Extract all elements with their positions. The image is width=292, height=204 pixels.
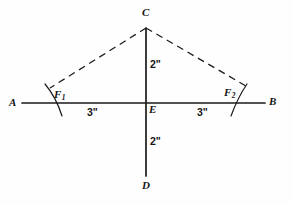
label-f2-subscript: 2: [232, 91, 236, 100]
geometry-diagram: A B C D E F1 F2 2" 2" 3" 3": [0, 0, 292, 204]
label-point-d: D: [142, 180, 150, 191]
dimension-lower-vertical: 2": [150, 136, 161, 147]
label-f2-base: F: [224, 86, 231, 98]
label-point-a: A: [9, 97, 16, 108]
dashed-line-c-f2: [146, 28, 246, 86]
dimension-right-horizontal: 3": [197, 107, 208, 118]
label-point-e: E: [149, 104, 156, 115]
dimension-left-horizontal: 3": [87, 107, 98, 118]
diagram-canvas: [0, 0, 292, 204]
label-point-f1: F1: [54, 89, 65, 100]
label-f1-subscript: 1: [62, 93, 66, 102]
label-f1-base: F: [54, 88, 61, 100]
dimension-upper-vertical: 2": [150, 59, 161, 70]
label-point-b: B: [269, 96, 276, 107]
dashed-line-c-f1: [50, 28, 146, 88]
label-point-f2: F2: [224, 87, 235, 98]
label-point-c: C: [142, 7, 149, 18]
